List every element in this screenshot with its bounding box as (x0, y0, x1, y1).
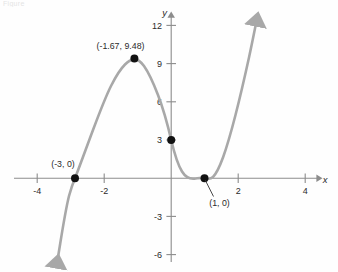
annotation-1-0: (1, 0) (209, 198, 230, 208)
x-tick-label-4: 4 (303, 186, 308, 196)
x-tick-label-2: 2 (236, 186, 241, 196)
x-tick-labels: -4 -2 2 4 (33, 186, 308, 196)
cubic-graph-plot: -4 -2 2 4 12 9 6 3 -3 -6 x y (0, 0, 338, 272)
point-local-max (130, 55, 138, 63)
annotation-local-max: (-1.67, 9.48) (97, 41, 145, 51)
y-tick-label-3: 3 (157, 135, 162, 145)
point-1-0 (201, 174, 209, 182)
point-y-intercept (167, 136, 175, 144)
leader-line-point-1-0 (205, 180, 213, 197)
y-axis-label: y (161, 7, 168, 18)
point-neg3-0 (71, 174, 79, 182)
annotation-neg3-0: (-3, 0) (51, 159, 75, 169)
y-tick-label--3: -3 (154, 212, 162, 222)
marked-points-group (71, 55, 209, 183)
figure-root: Figure (0, 0, 338, 272)
x-tick-label--2: -2 (100, 186, 108, 196)
y-tick-label-9: 9 (157, 59, 162, 69)
y-tick-labels: 12 9 6 3 -3 -6 (152, 21, 162, 260)
point-annotations: (-3, 0) (-1.67, 9.48) (1, 0) (51, 41, 230, 208)
y-tick-label--6: -6 (154, 250, 162, 260)
axes-group (14, 16, 318, 262)
x-axis-label: x (322, 174, 329, 185)
y-tick-label-12: 12 (152, 21, 162, 31)
x-tick-label--4: -4 (33, 186, 41, 196)
